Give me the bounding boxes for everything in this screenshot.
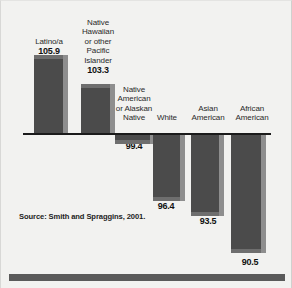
category-label-african-american: African American: [229, 104, 275, 123]
category-label-line: American: [185, 113, 231, 122]
bar-face: [153, 135, 180, 197]
bar-native-hawaiian: [81, 88, 110, 133]
value-label-native-hawaiian: 103.3: [73, 65, 123, 75]
category-label-line: or Alaskan: [108, 104, 160, 113]
bar-bottom-face: [115, 140, 150, 144]
bar-bottom-face: [231, 249, 261, 253]
bar-top-face: [81, 84, 110, 88]
bar-side-face: [180, 135, 185, 201]
category-label-line: Latino/a: [25, 37, 73, 46]
bar-side-face: [110, 84, 115, 133]
category-label-line: African: [229, 104, 275, 113]
bar-side-face: [219, 135, 224, 216]
bar-chart: Latino/a Native Hawaiian or other Pacifi…: [0, 0, 292, 288]
bar-face: [191, 135, 219, 212]
category-label-line: American: [229, 113, 275, 122]
source-note: Source: Smith and Spraggins, 2001.: [19, 212, 145, 221]
bar-white: [153, 135, 180, 197]
category-label-line: Islander: [73, 56, 123, 65]
bar-top-face: [34, 55, 63, 59]
value-label-african-american: 90.5: [227, 257, 273, 267]
category-label-line: Native: [108, 85, 160, 94]
category-label-white: White: [147, 113, 187, 122]
bottom-divider: [9, 274, 285, 281]
category-label-line: American: [108, 94, 160, 103]
bar-native-american: [115, 135, 150, 140]
bar-bottom-face: [191, 212, 219, 216]
bar-face: [81, 88, 110, 133]
category-label-line: Hawaiian: [73, 27, 123, 36]
bar-bottom-face: [153, 197, 180, 201]
category-label-native-hawaiian: Native Hawaiian or other Pacific Islande…: [73, 18, 123, 65]
category-label-line: White: [147, 113, 187, 122]
bar-latino: [34, 59, 63, 133]
bar-face: [34, 59, 63, 133]
bar-side-face: [261, 135, 266, 253]
bar-face: [231, 135, 261, 249]
category-label-line: Asian: [185, 104, 231, 113]
bar-asian-american: [191, 135, 219, 212]
axis-baseline: [23, 133, 271, 135]
value-label-white: 96.4: [145, 201, 187, 211]
category-label-latino: Latino/a: [25, 37, 73, 46]
category-label-asian-american: Asian American: [185, 104, 231, 123]
bar-african-american: [231, 135, 261, 249]
value-label-asian-american: 93.5: [185, 216, 231, 226]
category-label-line: Pacific: [73, 46, 123, 55]
category-label-line: or other: [73, 37, 123, 46]
bar-side-face: [63, 55, 68, 133]
category-label-line: Native: [73, 18, 123, 27]
